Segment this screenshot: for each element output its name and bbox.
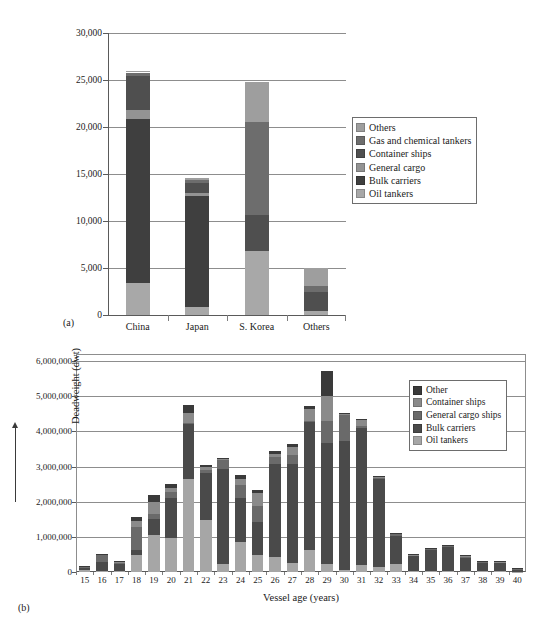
legend-label: Gas and chemical tankers — [369, 135, 471, 146]
y-axis-tick-label: 10,000 — [56, 216, 102, 226]
bar-segment — [183, 413, 194, 423]
legend-row: Other — [413, 384, 501, 397]
y-axis-tick-label: 5,000 — [56, 263, 102, 273]
bar-segment — [304, 409, 315, 421]
bar-segment — [321, 443, 332, 564]
bar-segment — [269, 454, 280, 458]
y-axis-tick-label: 15,000 — [56, 169, 102, 179]
bar-segment — [185, 193, 209, 196]
bar-segment — [269, 557, 280, 572]
bar — [287, 444, 298, 572]
legend-row: Bulk carriers — [356, 174, 471, 187]
category-separator — [227, 315, 228, 321]
x-axis-tick — [232, 572, 233, 575]
bar-segment — [183, 424, 194, 479]
bar-segment — [96, 571, 107, 572]
x-axis-tick-label: 18 — [128, 575, 145, 586]
legend-swatch-icon — [413, 398, 422, 407]
legend-swatch-icon — [356, 123, 365, 132]
x-axis-tick — [284, 572, 285, 575]
legend-label: Oil tankers — [369, 188, 413, 199]
x-axis-tick — [145, 572, 146, 575]
bar-segment — [460, 557, 471, 571]
bar-segment — [252, 555, 263, 572]
bar — [477, 561, 488, 572]
bar-segment — [304, 286, 328, 292]
bar-segment — [217, 564, 228, 572]
bar — [131, 517, 142, 572]
bar — [183, 405, 194, 572]
bar — [425, 548, 436, 572]
bar — [185, 178, 209, 315]
x-axis-tick-label: 33 — [388, 575, 405, 586]
bar-segment — [408, 555, 419, 556]
bar — [245, 82, 269, 315]
legend-row: General cargo ships — [413, 409, 501, 422]
x-axis-tick-label: Japan — [168, 321, 228, 332]
bar-segment — [442, 547, 453, 572]
bar-segment — [200, 467, 211, 470]
panel-label-a: (a) — [63, 317, 74, 328]
bar-segment — [131, 517, 142, 522]
x-axis-tick-label: 24 — [232, 575, 249, 586]
gridline — [76, 361, 526, 362]
legend-row: Gas and chemical tankers — [356, 134, 471, 147]
bar-segment — [339, 413, 350, 414]
bar-segment — [165, 538, 176, 572]
figure-b-stacked-bar-chart: 01,000,0002,000,0003,000,0004,000,0005,0… — [0, 340, 543, 626]
x-axis-tick — [76, 572, 77, 575]
bar-segment — [245, 82, 269, 122]
legend-row: Oil tankers — [413, 434, 501, 447]
bar — [79, 566, 90, 572]
bar-segment — [321, 371, 332, 396]
bar-segment — [96, 555, 107, 562]
bar-segment — [390, 536, 401, 564]
bar-segment — [217, 459, 228, 460]
bar-segment — [460, 557, 471, 558]
figure-a-stacked-bar-chart: 05,00010,00015,00020,00025,00030,000Chin… — [0, 0, 543, 340]
bar-segment — [245, 122, 269, 215]
y-axis-tick-label: 25,000 — [56, 75, 102, 85]
bar-segment — [114, 571, 125, 572]
bar-segment — [245, 215, 269, 251]
bar-segment — [425, 548, 436, 549]
bar-segment — [287, 444, 298, 447]
bar-segment — [131, 527, 142, 550]
x-axis-tick-label: 19 — [145, 575, 162, 586]
bar-segment — [185, 180, 209, 183]
bar-segment — [373, 477, 384, 479]
x-axis-tick — [266, 572, 267, 575]
x-axis-tick — [405, 572, 406, 575]
bar-segment — [304, 421, 315, 422]
x-axis-tick — [249, 572, 250, 575]
legend-swatch-icon — [413, 411, 422, 420]
bar-segment — [148, 514, 159, 519]
bar-segment — [304, 268, 328, 286]
bar — [408, 554, 419, 572]
bar-segment — [79, 566, 90, 567]
legend-row: Container ships — [413, 397, 501, 410]
bar-segment — [148, 519, 159, 536]
x-axis-tick — [491, 572, 492, 575]
bar-segment — [126, 119, 150, 284]
bar-segment — [165, 498, 176, 538]
legend-row: Oil tankers — [356, 187, 471, 200]
y-axis-tick-label: 3,000,000 — [14, 462, 72, 472]
bar-segment — [217, 460, 228, 468]
bar-segment — [408, 556, 419, 571]
bar-segment — [269, 451, 280, 453]
x-axis-tick-label: 34 — [405, 575, 422, 586]
bar-segment — [321, 396, 332, 421]
bar — [304, 268, 328, 315]
bar-segment — [131, 521, 142, 527]
bar-segment — [235, 485, 246, 498]
x-axis-tick-label: 21 — [180, 575, 197, 586]
x-axis-tick-label: 28 — [301, 575, 318, 586]
bar-segment — [79, 568, 90, 570]
bar-segment — [356, 426, 367, 428]
legend-swatch-icon — [356, 149, 365, 158]
legend-swatch-icon — [413, 436, 422, 445]
legend-label: Bulk carriers — [369, 175, 421, 186]
x-axis-tick — [457, 572, 458, 575]
x-axis-tick — [439, 572, 440, 575]
